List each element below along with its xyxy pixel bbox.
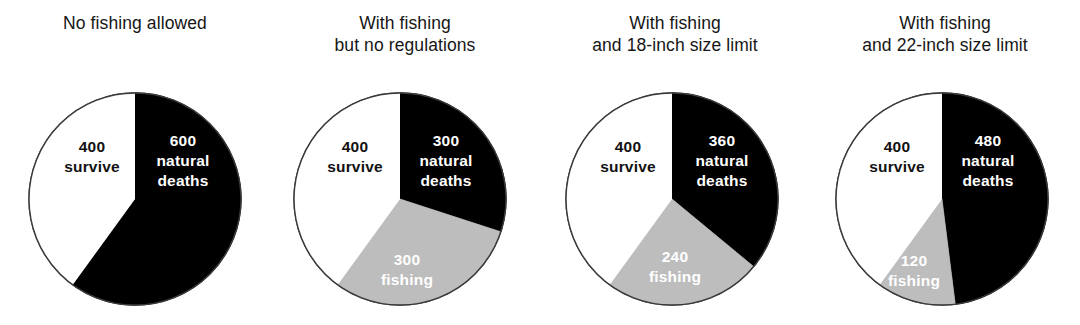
slice-value: 400	[615, 138, 641, 155]
pie-chart-figure: No fishing allowed600naturaldeaths400sur…	[0, 0, 1080, 325]
slice-value: 300	[433, 132, 459, 149]
pie-chart: 360naturaldeaths240fishing400survive	[540, 0, 810, 325]
pie-panel: With fishing but no regulations300natura…	[270, 0, 540, 325]
slice-name-line: natural	[419, 152, 472, 169]
slice-name-line: deaths	[696, 172, 747, 189]
pie-panel: No fishing allowed600naturaldeaths400sur…	[0, 0, 270, 325]
slice-name-line: natural	[961, 152, 1014, 169]
pie-panel: With fishing and 22-inch size limit480na…	[810, 0, 1080, 325]
pie-svg: 600naturaldeaths400survive	[0, 0, 270, 325]
slice-name-line: deaths	[157, 172, 208, 189]
pie-slice-natural-deaths[interactable]	[942, 93, 1048, 304]
slice-value: 480	[975, 132, 1001, 149]
pie-svg: 480naturaldeaths120fishing400survive	[810, 0, 1080, 325]
slice-value: 240	[662, 248, 688, 265]
slice-name-line: natural	[156, 152, 209, 169]
pie-chart: 480naturaldeaths120fishing400survive	[810, 0, 1080, 325]
slice-value: 600	[170, 132, 196, 149]
slice-name-line: survive	[64, 158, 120, 175]
pie-chart: 600naturaldeaths400survive	[0, 0, 270, 325]
pie-panel: With fishing and 18-inch size limit360na…	[540, 0, 810, 325]
slice-name-line: survive	[600, 158, 656, 175]
slice-value: 300	[394, 251, 420, 268]
pie-chart: 300naturaldeaths300fishing400survive	[270, 0, 540, 325]
slice-name-line: survive	[327, 158, 383, 175]
slice-name-line: fishing	[649, 268, 701, 285]
slice-name-line: fishing	[381, 271, 433, 288]
slice-name-line: natural	[695, 152, 748, 169]
slice-value: 400	[884, 138, 910, 155]
slice-name-line: deaths	[962, 172, 1013, 189]
slice-value: 120	[901, 252, 927, 269]
slice-value: 400	[79, 138, 105, 155]
pie-svg: 300naturaldeaths300fishing400survive	[270, 0, 540, 325]
slice-name-line: survive	[869, 158, 925, 175]
slice-value: 360	[709, 132, 735, 149]
pie-svg: 360naturaldeaths240fishing400survive	[540, 0, 810, 325]
slice-value: 400	[342, 138, 368, 155]
slice-name-line: fishing	[888, 272, 940, 289]
slice-name-line: deaths	[420, 172, 471, 189]
